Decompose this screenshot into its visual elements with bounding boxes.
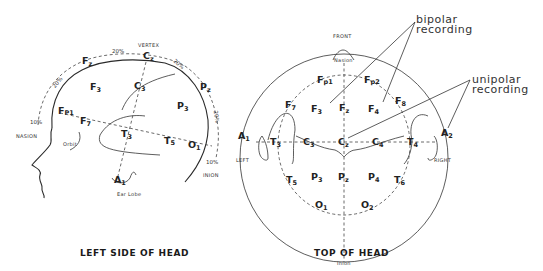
electrode-t3: T3 xyxy=(121,128,132,141)
eeg-10-20-diagram: VERTEX NASION INION Orbit Ear Lobe 10% 2… xyxy=(0,0,543,271)
electrode-a1-top: A1 xyxy=(238,130,250,143)
pct-pz-o1: 20% xyxy=(213,110,221,123)
electrode-pz-top: Pz xyxy=(338,171,349,184)
left-ear xyxy=(259,136,268,160)
pct-fz-cz: 20% xyxy=(112,48,124,54)
central-curve xyxy=(122,74,175,110)
right-label: RIGHT xyxy=(434,157,452,163)
nasion-label-top: Nasion xyxy=(334,57,353,63)
top-view: FRONT Nasion Inion LEFT RIGHT Fp1 Fp2 F7… xyxy=(236,22,470,266)
cz-a1-line xyxy=(118,62,146,176)
side-caption: LEFT SIDE OF HEAD xyxy=(80,248,189,258)
electrode-fp1: FP1 xyxy=(58,105,74,117)
ear-lobe-label: Ear Lobe xyxy=(117,191,141,197)
electrode-o1-top: O1 xyxy=(315,199,328,212)
side-view: VERTEX NASION INION Orbit Ear Lobe 10% 2… xyxy=(16,42,221,258)
electrode-f7: F7 xyxy=(80,115,91,128)
electrode-t5-top: T5 xyxy=(286,174,297,187)
bipolar-leader-2 xyxy=(383,22,415,102)
pct-inion: 10% xyxy=(206,159,218,165)
vertex-label: VERTEX xyxy=(138,42,159,48)
front-label: FRONT xyxy=(333,33,352,39)
electrode-f3: F3 xyxy=(90,81,101,94)
electrode-o2-top: O2 xyxy=(361,199,374,212)
electrode-a1-side: A1 xyxy=(114,174,126,187)
electrode-o1: O1 xyxy=(188,139,201,152)
electrode-f4-top: F4 xyxy=(368,103,380,116)
electrode-t4-top: T4 xyxy=(407,136,418,149)
electrode-p3: P3 xyxy=(177,100,189,113)
unipolar-leader-1 xyxy=(348,80,470,138)
electrode-p3-top: P3 xyxy=(311,171,323,184)
nasion-label: NASION xyxy=(16,133,37,139)
top-caption: TOP OF HEAD xyxy=(314,248,389,258)
left-label: LEFT xyxy=(236,157,250,163)
electrode-cz: Cz xyxy=(143,50,154,63)
orbit-label: Orbit xyxy=(63,141,77,147)
electrode-f3-top: F3 xyxy=(311,103,322,116)
electrode-t6-top: T6 xyxy=(394,174,405,187)
skull-outline xyxy=(52,60,208,182)
electrode-cz-top: Cz xyxy=(338,136,349,149)
unipolar-label-line2: recording xyxy=(472,83,529,96)
electrode-a2-top: A2 xyxy=(441,127,453,140)
unipolar-leader-2 xyxy=(448,80,470,128)
bipolar-label-line2: recording xyxy=(416,23,473,36)
pct-cz-pz: 20% xyxy=(172,58,185,70)
electrode-pz: Pz xyxy=(200,81,211,94)
electrode-c4-top: C4 xyxy=(372,136,384,149)
electrode-fp1-top: Fp1 xyxy=(317,74,333,86)
inion-label: INION xyxy=(203,172,219,178)
inion-label-top: Inion xyxy=(337,260,351,266)
electrode-p4-top: P4 xyxy=(368,171,380,184)
electrode-t5: T5 xyxy=(164,135,175,147)
electrode-fz-top: Fz xyxy=(339,102,350,115)
electrode-c3-top: C3 xyxy=(303,136,315,149)
electrode-t3-top: T3 xyxy=(270,136,281,149)
electrode-fp2-top: Fp2 xyxy=(364,74,380,86)
pct-nasion: 10% xyxy=(30,119,42,125)
electrode-f8-top: F8 xyxy=(395,95,407,108)
electrode-fz: Fz xyxy=(82,55,93,68)
